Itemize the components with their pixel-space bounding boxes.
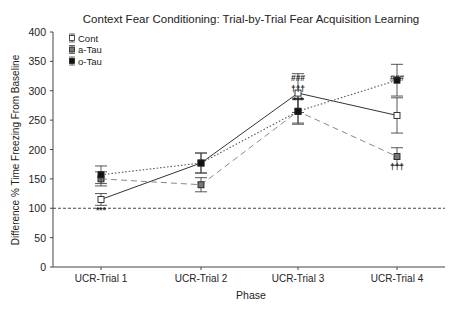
- significance-marker: †††: [390, 162, 404, 172]
- legend-label: o-Tau: [78, 56, 102, 67]
- data-point: [198, 160, 204, 166]
- series-o-tau: [95, 64, 403, 183]
- y-tick-label: 300: [28, 85, 46, 97]
- series-cont: [95, 74, 403, 206]
- y-tick-label: 200: [28, 144, 46, 156]
- y-axis-ticks: 050100150200250300350400: [28, 26, 53, 273]
- legend-label: a-Tau: [78, 44, 102, 55]
- series-line: [101, 80, 397, 175]
- x-tick-label: UCR-Trial 1: [75, 273, 128, 284]
- x-axis-ticks: UCR-Trial 1UCR-Trial 2UCR-Trial 3UCR-Tri…: [75, 267, 424, 284]
- x-tick-label: UCR-Trial 2: [175, 273, 228, 284]
- y-tick-label: 250: [28, 114, 46, 126]
- data-point: [394, 154, 400, 160]
- significance-marker: ###: [291, 73, 305, 83]
- legend-label: Cont: [78, 33, 98, 44]
- series-line: [101, 111, 397, 184]
- y-tick-label: 100: [28, 202, 46, 214]
- significance-marker: ***: [293, 95, 304, 105]
- legend-item-cont: Cont: [69, 33, 98, 44]
- significance-marker: ###: [390, 73, 404, 83]
- y-tick-label: 150: [28, 173, 46, 185]
- data-point: [394, 112, 400, 118]
- x-tick-label: UCR-Trial 3: [272, 273, 325, 284]
- series-a-tau: [95, 100, 403, 192]
- legend-marker-icon: [70, 36, 75, 41]
- legend-item-a-tau: a-Tau: [69, 44, 102, 55]
- axes: [53, 32, 445, 267]
- data-point: [198, 182, 204, 188]
- legend-marker-icon: [70, 47, 75, 52]
- data-point: [98, 172, 104, 178]
- data-point: [98, 196, 104, 202]
- line-chart: Context Fear Conditioning: Trial-by-Tria…: [0, 0, 458, 311]
- legend-marker-icon: [70, 59, 75, 64]
- y-tick-label: 0: [40, 261, 46, 273]
- series-line: [101, 93, 397, 199]
- significance-marker: †††: [291, 84, 305, 94]
- chart-title: Context Fear Conditioning: Trial-by-Tria…: [83, 13, 419, 25]
- legend-item-o-tau: o-Tau: [69, 56, 102, 67]
- annotations: ***###†††***###†††: [96, 73, 404, 215]
- y-axis-label: Difference % Time Freezing From Baseline: [10, 54, 21, 245]
- significance-marker: ***: [96, 205, 107, 215]
- y-tick-label: 400: [28, 26, 46, 38]
- x-axis-label: Phase: [236, 289, 266, 301]
- series-group: [95, 64, 403, 205]
- legend: Conta-Tauo-Tau: [69, 33, 102, 67]
- data-point: [295, 108, 301, 114]
- x-tick-label: UCR-Trial 4: [371, 273, 424, 284]
- y-tick-label: 350: [28, 55, 46, 67]
- y-tick-label: 50: [34, 232, 46, 244]
